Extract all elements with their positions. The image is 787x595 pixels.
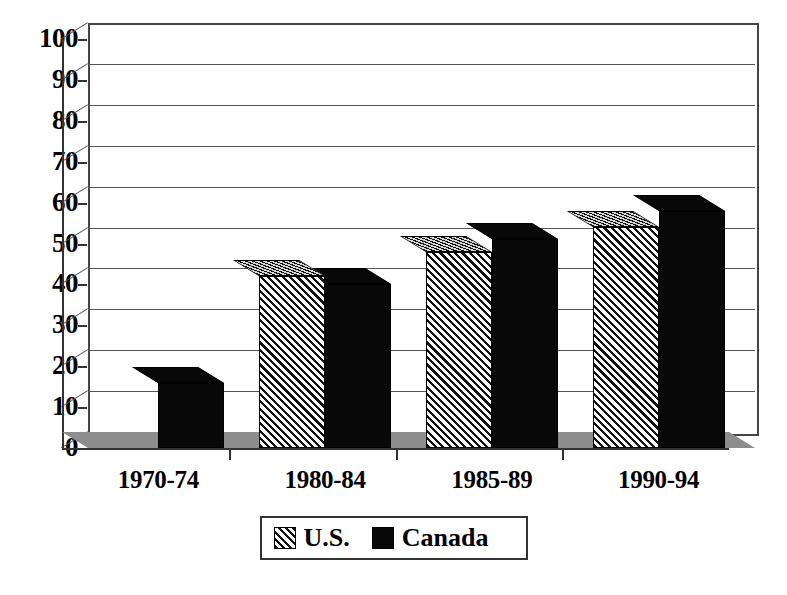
x-tick-label: 1970-74 bbox=[68, 467, 248, 492]
bar-canada-1970-74 bbox=[158, 383, 224, 448]
bar-chart: 0102030405060708090100 1970-741980-84198… bbox=[0, 0, 787, 595]
x-tick-label: 1985-89 bbox=[402, 467, 582, 492]
axis-depth-edge bbox=[61, 349, 88, 366]
bar-front-face bbox=[325, 284, 391, 448]
axis-depth-edge bbox=[61, 390, 88, 407]
y-axis-line bbox=[62, 39, 64, 448]
axis-depth-edge bbox=[61, 308, 88, 325]
x-tick-label: 1980-84 bbox=[235, 467, 415, 492]
chart-legend: U.S.Canada bbox=[260, 516, 528, 560]
legend-label: U.S. bbox=[304, 525, 350, 551]
legend-item-canada: Canada bbox=[372, 525, 489, 551]
bar-front-face bbox=[158, 383, 224, 448]
axis-depth-edge bbox=[61, 104, 88, 121]
gridline bbox=[88, 64, 755, 65]
bar-front-face bbox=[492, 239, 558, 448]
x-axis-tick bbox=[229, 448, 231, 460]
legend-label: Canada bbox=[402, 525, 489, 551]
bar-front-face bbox=[259, 276, 325, 448]
bar-front-face bbox=[593, 227, 659, 448]
legend-item-us: U.S. bbox=[274, 525, 372, 551]
bar-canada-1980-84 bbox=[325, 284, 391, 448]
axis-depth-edge bbox=[61, 186, 88, 203]
gridline bbox=[88, 187, 755, 188]
gridline bbox=[88, 105, 755, 106]
bar-us-1990-94 bbox=[593, 227, 659, 448]
x-axis-tick bbox=[562, 448, 564, 460]
axis-depth-edge bbox=[61, 145, 88, 162]
x-tick-label: 1990-94 bbox=[569, 467, 749, 492]
x-axis-tick bbox=[396, 448, 398, 460]
hatch-swatch-icon bbox=[274, 527, 296, 549]
gridline bbox=[88, 146, 755, 147]
axis-depth-edge bbox=[61, 22, 88, 39]
axis-depth-edge bbox=[61, 227, 88, 244]
bar-us-1985-89 bbox=[426, 252, 492, 448]
bar-us-1980-84 bbox=[259, 276, 325, 448]
black-swatch-icon bbox=[372, 527, 394, 549]
bar-front-face bbox=[659, 211, 725, 448]
plot-area bbox=[0, 0, 787, 595]
bar-canada-1985-89 bbox=[492, 239, 558, 448]
axis-depth-edge bbox=[61, 268, 88, 285]
bar-front-face bbox=[426, 252, 492, 448]
bar-canada-1990-94 bbox=[659, 211, 725, 448]
axis-depth-edge bbox=[61, 63, 88, 80]
